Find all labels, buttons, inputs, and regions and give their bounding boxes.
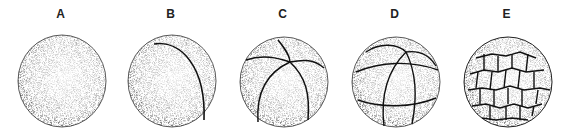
- single-cell-embryo-icon: [16, 32, 108, 130]
- panel-c: C: [226, 0, 339, 136]
- panel-d: D: [338, 0, 451, 136]
- panel-label: E: [450, 7, 563, 21]
- four-cell-embryo-icon: [238, 32, 330, 130]
- panel-e: E: [450, 0, 563, 136]
- eight-cell-embryo-icon: [350, 32, 442, 130]
- panel-label: C: [226, 7, 339, 21]
- panel-label: A: [4, 7, 117, 21]
- panel-label: D: [338, 7, 451, 21]
- two-cell-embryo-icon: [126, 32, 218, 130]
- panel-a: A: [4, 0, 117, 136]
- morula-embryo-icon: [462, 32, 554, 130]
- panel-b: B: [114, 0, 227, 136]
- panel-label: B: [114, 7, 227, 21]
